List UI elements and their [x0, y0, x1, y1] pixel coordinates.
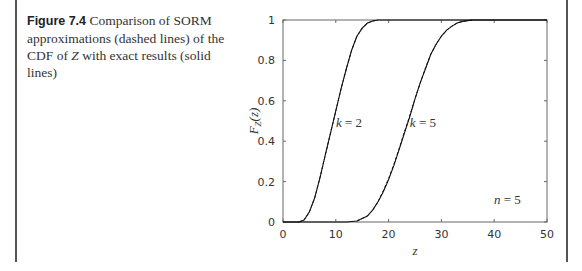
- chart-labels: 0102030405000.20.40.60.81zFZ(z)k = 2k = …: [246, 14, 554, 258]
- x-tick-label: 10: [329, 228, 343, 241]
- curve-annotation: k = 5: [410, 115, 436, 130]
- x-tick-label: 20: [382, 228, 396, 241]
- y-tick-label: 0: [268, 216, 275, 229]
- x-tick-label: 0: [280, 228, 287, 241]
- x-tick-label: 40: [487, 228, 501, 241]
- y-tick-label: 0.2: [258, 176, 276, 189]
- y-tick-label: 0.4: [258, 135, 276, 148]
- curve-annotation: k = 2: [336, 115, 362, 130]
- y-tick-label: 0.8: [258, 54, 276, 67]
- x-axis-label: z: [411, 243, 417, 258]
- y-tick-label: 0.6: [258, 95, 276, 108]
- y-tick-label: 1: [268, 14, 275, 27]
- x-tick-label: 30: [434, 228, 448, 241]
- curve-annotation: n = 5: [494, 192, 521, 207]
- x-tick-label: 50: [540, 228, 554, 241]
- y-axis-label: FZ(z): [246, 108, 263, 136]
- cdf-chart: 0102030405000.20.40.60.81zFZ(z)k = 2k = …: [0, 0, 582, 271]
